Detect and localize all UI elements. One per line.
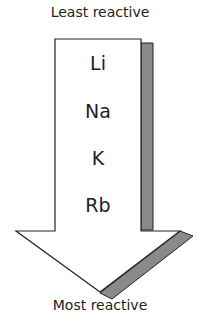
most-reactive-label: Most reactive: [0, 297, 200, 313]
element-rb: Rb: [55, 194, 141, 216]
element-na: Na: [55, 100, 141, 122]
element-li: Li: [55, 52, 141, 74]
element-k: K: [55, 147, 141, 169]
